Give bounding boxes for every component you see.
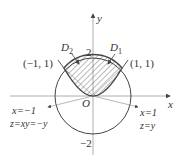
diagram-canvas: y x O 2 −2 D2 D1 (−1, 1) (1, 1) x=−1 z=x… xyxy=(0,0,185,163)
x-axis-label: x xyxy=(167,98,173,110)
left-eq-label: z=xy=−y xyxy=(9,118,48,129)
region-D1-label: D1 xyxy=(109,41,122,56)
left-line-label: x=−1 xyxy=(11,105,36,116)
right-eq-label: z=y xyxy=(139,120,156,131)
point-neg1-1-label: (−1, 1) xyxy=(23,57,53,70)
tick-bottom: −2 xyxy=(80,137,92,149)
origin-label: O xyxy=(82,97,90,109)
tick-top: 2 xyxy=(86,46,92,58)
y-axis-label: y xyxy=(96,12,102,24)
right-line-label: x=1 xyxy=(139,107,157,118)
region-D2-label: D2 xyxy=(60,41,73,56)
point-1-1-label: (1, 1) xyxy=(130,57,154,70)
shaded-region xyxy=(64,55,122,96)
